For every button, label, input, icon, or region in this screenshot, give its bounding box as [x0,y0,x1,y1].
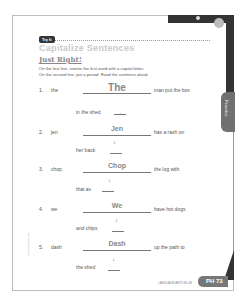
exercise-item-2: 2. jen Jen has a rash on [39,126,219,136]
decorative-border-right [226,15,234,95]
period-field[interactable]: . [114,114,126,121]
sentence-rest: has a rash on [154,129,184,135]
decorative-dot-icon [196,16,200,20]
instruction-line-1: On the first line, rewrite the first wor… [39,66,144,71]
copyright-note: Copyright information [27,232,30,256]
exercise-item-4: 4. we We have hot dogs [39,203,219,213]
item-number: 5. [39,244,43,250]
page-number-tab: PH 73 [198,276,228,287]
answer-field[interactable]: The [83,82,151,93]
period-field[interactable] [102,191,114,192]
instruction-line-2: On the second line, put a period. Read t… [39,72,148,77]
item-number: 1. [39,87,43,93]
sentence-rest: up the path to [154,244,185,250]
arrow-down-icon: ↓ [113,139,116,145]
exercise-item-5: 5. dash Dash up the path to [39,241,219,251]
sentence-continuation-5: the shed [76,264,95,270]
sentence-rest: have hot dogs [154,206,185,212]
dotted-divider [55,40,210,41]
period-field[interactable] [110,153,122,154]
answer-field[interactable]: Chop [83,162,151,169]
decorative-circle-icon [214,18,224,28]
arrow-down-icon: ↓ [108,177,111,183]
sentence-rest: man put the box [154,87,190,93]
answer-field[interactable]: We [83,202,151,209]
period-field[interactable] [108,270,120,271]
sentence-continuation-2: her back [76,147,95,153]
period-field[interactable] [112,231,124,232]
item-number: 4. [39,206,43,212]
try-it-badge: Try It [39,36,55,43]
footer-label: LANGUAGE ARTS BLUE [158,281,192,285]
page-title: Capitalize Sentences [39,43,135,53]
arrow-down-icon: ↓ [115,217,118,223]
practice-side-tab: Practice [221,92,235,132]
sentence-rest: the log with [154,166,179,172]
answer-field[interactable]: Dash [83,240,151,247]
item-word: chop [51,166,62,172]
answer-line [83,172,151,173]
exercise-item-3: 3. chop Chop the log with [39,163,219,173]
item-number: 3. [39,166,43,172]
answer-line [83,135,151,136]
sentence-continuation-1: in the shed [76,109,100,115]
answer-line [83,93,151,94]
item-word: jen [51,129,58,135]
item-word: dash [51,244,62,250]
answer-line [83,250,151,251]
page-subtitle: Just Right! [39,55,82,64]
answer-line [83,212,151,213]
answer-field[interactable]: Jen [83,125,151,132]
sentence-continuation-3: that ax [76,186,91,192]
item-word: the [51,87,58,93]
side-tab-label: Practice [224,100,229,117]
item-word: we [51,206,57,212]
item-number: 2. [39,129,43,135]
arrow-down-icon: ↓ [112,256,115,262]
sentence-continuation-4: and chips [76,225,97,231]
exercise-item-1: 1. the The man put the box [39,84,219,94]
decorative-border-top [168,15,234,23]
